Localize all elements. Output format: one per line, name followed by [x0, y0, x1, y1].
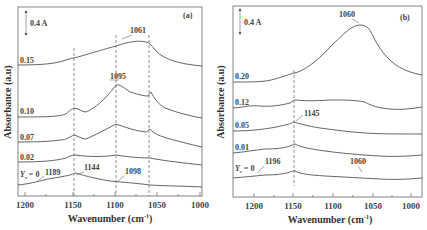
series-label: 0.12: [235, 98, 249, 107]
panel-b: 1200 1150 1100 1050 1000 Wavenumber (cm-…: [215, 6, 422, 226]
x-tick-label: 1150: [64, 200, 82, 210]
series-label: 0.07: [20, 133, 34, 142]
annotation-1144: 1144: [84, 163, 100, 172]
curve-0.12: [233, 100, 422, 109]
curve-0.10: [18, 85, 202, 118]
panel-a: 1200 1150 1100 1050 1000 Wavenumber (cm-…: [2, 7, 210, 225]
panel-b-x-ticks: [254, 193, 411, 197]
panel-tag: (a): [183, 11, 193, 20]
series-label: 0.15: [20, 56, 34, 65]
curve-0.05: [233, 122, 422, 134]
annotation-arrow-icon: [117, 176, 124, 182]
annotation-1060: 1060: [350, 157, 366, 166]
panel-a-x-ticks: [25, 192, 200, 196]
curve-0.15: [18, 41, 202, 66]
scale-bar-arrow-icon: [239, 8, 242, 35]
annotation-arrow-icon: [296, 115, 303, 121]
annotation-1098: 1098: [125, 167, 141, 176]
curve-0.02: [18, 155, 202, 165]
ftir-figure: 1200 1150 1100 1050 1000 Wavenumber (cm-…: [0, 0, 427, 230]
x-tick-label: 1100: [324, 201, 342, 211]
curve-ys-0: [233, 171, 422, 179]
annotation-1095: 1095: [110, 72, 126, 81]
x-tick-label: 1050: [364, 201, 383, 211]
scale-bar-label: 0.4 A: [30, 19, 48, 28]
x-tick-label: 1150: [284, 201, 302, 211]
panel-tag: (b): [400, 13, 410, 22]
series-label: 0.10: [20, 107, 34, 116]
curve-0.20: [233, 25, 422, 82]
scale-bar-arrow-icon: [25, 10, 28, 36]
annotation-1196: 1196: [265, 157, 281, 166]
annotation-1060-peak: 1060: [339, 10, 355, 19]
annotation-arrow-icon: [122, 35, 132, 39]
annotation-1145: 1145: [304, 109, 320, 118]
series-label: 0.02: [20, 153, 34, 162]
x-tick-label: 1000: [402, 201, 421, 211]
y-axis-title: Absorbance (a.u): [2, 65, 14, 138]
x-tick-label: 1000: [191, 200, 210, 210]
x-axis-title: Wavenumber (cm-1): [68, 213, 153, 225]
series-label: 0.01: [235, 143, 249, 152]
annotation-1061: 1061: [130, 26, 146, 35]
annotation-arrow-icon: [352, 19, 359, 23]
x-tick-label: 1200: [245, 201, 264, 211]
x-tick-label: 1050: [148, 200, 167, 210]
x-axis-title: Wavenumber (cm-1): [288, 214, 373, 226]
series-label: 0.20: [235, 72, 249, 81]
annotation-arrow-icon: [257, 166, 264, 173]
scale-bar-label: 0.4 A: [244, 18, 262, 27]
annotation-arrow-icon: [358, 166, 362, 172]
series-label-ys: Ys = 0: [20, 170, 39, 180]
series-label-ys: Ys = 0: [235, 164, 254, 174]
y-axis-title: Absorbance (a.u): [215, 65, 227, 138]
curve-0.07: [18, 124, 202, 147]
x-tick-label: 1100: [106, 200, 124, 210]
curve-0.01: [233, 144, 422, 156]
series-label: 0.05: [235, 121, 249, 130]
annotation-1189: 1189: [45, 168, 61, 177]
x-tick-label: 1200: [16, 200, 35, 210]
